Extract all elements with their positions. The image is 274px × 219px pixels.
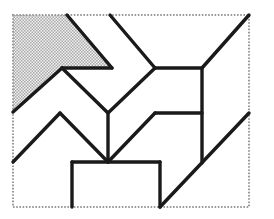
figure-container: A square frame with a dotted gray border…	[0, 0, 274, 219]
line-figure-canvas	[0, 0, 274, 219]
